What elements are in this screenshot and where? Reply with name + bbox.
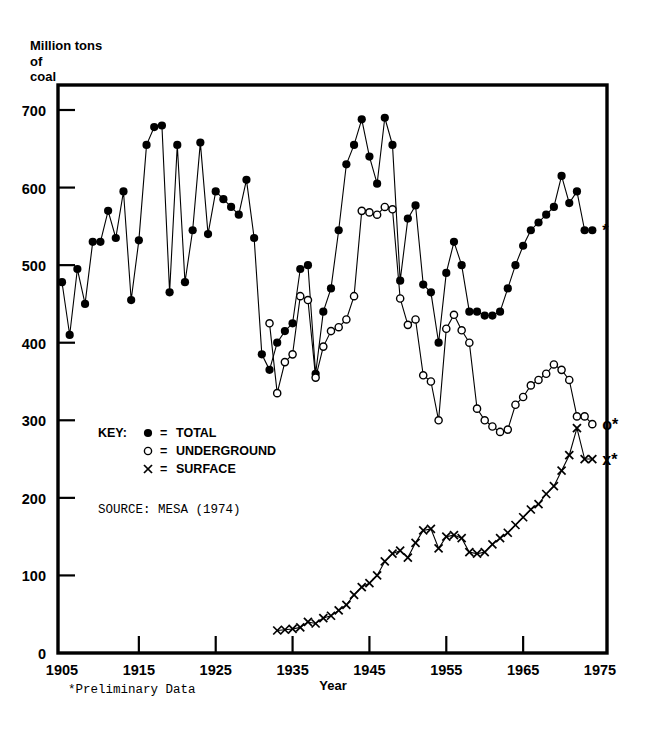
marker-total	[258, 350, 266, 358]
y-axis-ticks	[58, 110, 75, 575]
y-tick-label: 300	[22, 413, 46, 429]
marker-total	[404, 215, 412, 223]
marker-underground	[450, 311, 457, 318]
marker-total	[527, 226, 535, 234]
marker-total	[127, 296, 135, 304]
marker-underground	[304, 296, 311, 303]
y-tick-label: 600	[22, 181, 46, 197]
x-tick-label: 1935	[276, 662, 308, 678]
marker-total	[66, 331, 74, 339]
marker-total	[58, 278, 66, 286]
marker-underground	[573, 413, 580, 420]
marker-total	[581, 226, 589, 234]
y-tick-label: 200	[22, 491, 46, 507]
marker-underground	[343, 316, 350, 323]
marker-underground	[496, 428, 503, 435]
marker-underground	[274, 390, 281, 397]
x-axis-tick-labels: 19051915192519351945195519651975	[46, 662, 616, 678]
marker-total	[135, 236, 143, 244]
marker-total	[319, 308, 327, 316]
x-tick-label: 1955	[430, 662, 462, 678]
x-axis-ticks	[139, 636, 523, 653]
marker-total	[112, 234, 120, 242]
marker-total	[150, 123, 158, 131]
legend-label-underground: UNDERGROUND	[176, 444, 276, 458]
marker-total	[189, 226, 197, 234]
x-tick-label: 1965	[507, 662, 539, 678]
coal-production-chart: Million tons of coal 0100200300400500600…	[0, 0, 650, 733]
marker-total	[166, 288, 174, 296]
marker-underground	[443, 325, 450, 332]
marker-underground	[489, 423, 496, 430]
preliminary-footnote: *Preliminary Data	[68, 683, 196, 697]
marker-underground	[397, 295, 404, 302]
marker-total	[373, 180, 381, 188]
marker-total	[381, 114, 389, 122]
marker-underground	[589, 421, 596, 428]
marker-total	[419, 280, 427, 288]
series-line-total	[62, 118, 592, 374]
preliminary-annotations: *o*x*	[602, 222, 619, 468]
marker-total	[435, 339, 443, 347]
marker-underground	[266, 320, 273, 327]
marker-total	[250, 234, 258, 242]
marker-underground	[320, 343, 327, 350]
marker-total	[511, 261, 519, 269]
marker-underground	[420, 372, 427, 379]
marker-total	[96, 238, 104, 246]
marker-total	[273, 339, 281, 347]
marker-total	[465, 308, 473, 316]
marker-total	[242, 176, 250, 184]
marker-underground	[520, 393, 527, 400]
marker-total	[519, 242, 527, 250]
marker-underground	[550, 361, 557, 368]
marker-underground	[374, 211, 381, 218]
plot-frame	[58, 85, 607, 653]
marker-total	[396, 277, 404, 285]
marker-underground	[327, 327, 334, 334]
y-tick-label: 0	[38, 646, 46, 662]
legend-symbol-underground	[144, 447, 151, 454]
marker-underground	[358, 207, 365, 214]
series-line-underground	[270, 207, 593, 432]
marker-total	[550, 203, 558, 211]
marker-underground	[312, 374, 319, 381]
legend: KEY: =TOTAL=UNDERGROUND=SURFACE	[98, 426, 276, 476]
marker-total	[458, 261, 466, 269]
marker-total	[358, 115, 366, 123]
marker-total	[204, 230, 212, 238]
legend-equals: =	[160, 426, 167, 440]
series-line-surface	[277, 428, 592, 630]
marker-total	[327, 284, 335, 292]
y-tick-label: 700	[22, 103, 46, 119]
preliminary-marker: x*	[602, 451, 618, 468]
marker-total	[573, 187, 581, 195]
legend-label-surface: SURFACE	[176, 462, 236, 476]
marker-underground	[350, 293, 357, 300]
marker-total	[304, 261, 312, 269]
y-axis-title-line1: Million tons	[30, 38, 102, 53]
y-tick-label: 100	[22, 568, 46, 584]
marker-total	[104, 207, 112, 215]
marker-underground	[297, 293, 304, 300]
marker-underground	[473, 405, 480, 412]
marker-underground	[512, 401, 519, 408]
x-tick-label: 1975	[584, 662, 616, 678]
marker-underground	[527, 382, 534, 389]
marker-underground	[412, 316, 419, 323]
legend-label-total: TOTAL	[176, 426, 217, 440]
marker-underground	[404, 321, 411, 328]
marker-total	[296, 265, 304, 273]
marker-total	[158, 121, 166, 129]
marker-underground	[427, 378, 434, 385]
marker-underground	[381, 203, 388, 210]
marker-total	[565, 199, 573, 207]
marker-total	[196, 138, 204, 146]
marker-total	[365, 152, 373, 160]
marker-total	[288, 319, 296, 327]
marker-total	[173, 141, 181, 149]
y-tick-label: 400	[22, 336, 46, 352]
series-lines	[62, 118, 592, 631]
marker-underground	[458, 327, 465, 334]
marker-underground	[543, 370, 550, 377]
